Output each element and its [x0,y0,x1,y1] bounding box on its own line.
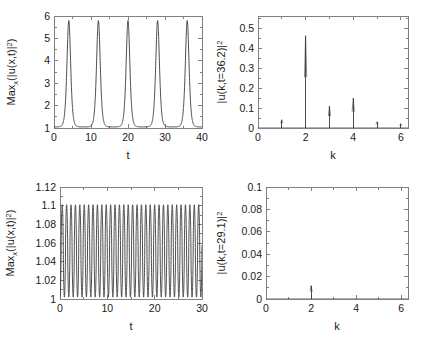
y-axis-title: Maxx(|u(x,t)|2) [5,39,20,106]
x-axis-title: t [126,149,129,161]
chart-bottom-left: 010203011.021.041.061.081.11.12tMaxx(|u(… [0,171,212,342]
y-tick-label: 0.1 [239,102,254,114]
y-tick-label: 1.06 [36,237,57,249]
x-tick-label: 2 [308,302,314,314]
x-axis-title: k [334,320,340,332]
y-tick-label: 0.04 [242,248,263,260]
y-tick-label: 2 [44,99,50,111]
y-tick-label: 3 [44,77,50,89]
y-tick-label: 0.5 [239,22,254,34]
y-tick-label: 0.06 [242,225,263,237]
x-tick-label: 0 [57,302,63,314]
y-tick-label: 0.1 [247,181,262,193]
y-tick-label: 1 [50,293,56,305]
y-tick-label: 5 [44,32,50,44]
y-tick-label: 0.2 [239,82,254,94]
x-tick-label: 0 [263,302,269,314]
x-tick-label: 0 [255,131,261,143]
y-tick-label: 1 [44,122,50,134]
x-tick-label: 20 [149,302,161,314]
x-tick-label: 0 [51,131,57,143]
x-axis-title: t [129,320,132,332]
y-axis-title: |u(k,t=29.1)|2 [215,212,228,275]
y-tick-label: 1.08 [36,218,57,230]
x-tick-label: 2 [303,131,309,143]
plot-frame [54,16,202,128]
y-tick-label: 1.04 [36,255,57,267]
y-tick-label: 0.02 [242,270,263,282]
plot-panel-bottom-left: 010203011.021.041.061.081.11.12tMaxx(|u(… [0,171,212,342]
y-tick-label: 0.08 [242,203,263,215]
y-tick-label: 1.12 [36,181,57,193]
plot-panel-top-right: 024600.10.20.30.40.5k|u(k,t=36.2)|2 [212,0,424,171]
y-tick-label: 6 [44,10,50,22]
y-tick-label: 0 [248,122,254,134]
x-tick-label: 4 [353,302,359,314]
y-tick-label: 1.02 [36,274,57,286]
x-tick-label: 10 [85,131,97,143]
y-tick-label: 0.3 [239,62,254,74]
figure-container: 010203040123456tMaxx(|u(x,t)|2) 024600.1… [0,0,424,342]
x-tick-label: 40 [196,131,208,143]
y-tick-label: 1.1 [41,199,56,211]
x-tick-label: 30 [159,131,171,143]
y-axis-title: Maxx(|u(x,t)|2) [4,210,19,277]
y-tick-label: 0.4 [239,42,254,54]
x-tick-label: 10 [101,302,113,314]
x-tick-label: 20 [122,131,134,143]
x-tick-label: 6 [398,302,404,314]
y-axis-title: |u(k,t=36.2)|2 [215,41,228,104]
chart-top-left: 010203040123456tMaxx(|u(x,t)|2) [0,0,212,171]
x-axis-title: k [330,149,336,161]
x-tick-label: 4 [350,131,356,143]
y-tick-label: 4 [44,54,50,66]
y-tick-label: 0 [256,293,262,305]
plot-panel-top-left: 010203040123456tMaxx(|u(x,t)|2) [0,0,212,171]
plot-panel-bottom-right: 024600.020.040.060.080.1k|u(k,t=29.1)|2 [212,171,424,342]
x-tick-label: 6 [398,131,404,143]
chart-top-right: 024600.10.20.30.40.5k|u(k,t=36.2)|2 [212,0,424,171]
plot-frame [258,16,408,128]
plot-frame [266,187,408,299]
chart-bottom-right: 024600.020.040.060.080.1k|u(k,t=29.1)|2 [212,171,424,342]
x-tick-label: 30 [196,302,208,314]
